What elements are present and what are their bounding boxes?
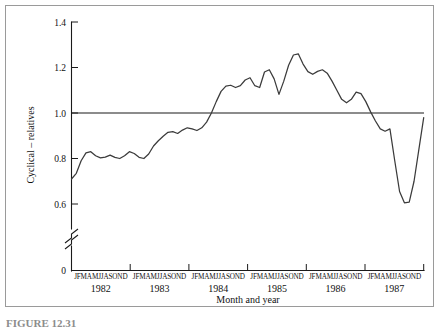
- year-label-1983: 1983: [150, 283, 170, 294]
- y-tick-label-0: 0: [61, 266, 66, 276]
- year-label-1982: 1982: [91, 283, 111, 294]
- year-label-1986: 1986: [326, 283, 346, 294]
- month-letters-1984: JFMAMJJASOND: [192, 273, 245, 281]
- year-label-1984: 1984: [208, 283, 228, 294]
- y-axis-title: Cyclical – relatives: [25, 106, 36, 183]
- month-letters-1987: JFMAMJJASOND: [368, 273, 421, 281]
- y-tick-label-1-0: 1.0: [54, 109, 66, 119]
- month-letters-1986: JFMAMJJASOND: [309, 273, 362, 281]
- y-tick-label-1-4: 1.4: [54, 18, 66, 28]
- cyclical-relatives-series: [72, 54, 424, 203]
- figure-root: 1.4 1.2 1.0 0.8 0.6 0 Cyclical – relativ…: [0, 0, 447, 333]
- x-axis-group: JFMAMJJASOND JFMAMJJASOND JFMAMJJASOND J…: [72, 264, 425, 305]
- y-tick-label-0-8: 0.8: [54, 154, 66, 164]
- month-letters-1982: JFMAMJJASOND: [74, 273, 127, 281]
- x-axis-title: Month and year: [216, 294, 280, 305]
- year-label-1985: 1985: [267, 283, 287, 294]
- month-letters-1985: JFMAMJJASOND: [250, 273, 303, 281]
- figure-caption: FIGURE 12.31: [6, 320, 126, 329]
- y-axis-group: 1.4 1.2 1.0 0.8 0.6 0 Cyclical – relativ…: [25, 18, 78, 277]
- year-label-1987: 1987: [384, 283, 404, 294]
- chart-canvas: 1.4 1.2 1.0 0.8 0.6 0 Cyclical – relativ…: [0, 0, 447, 333]
- month-letters-1983: JFMAMJJASOND: [133, 273, 186, 281]
- y-tick-label-1-2: 1.2: [54, 63, 66, 73]
- y-tick-label-0-6: 0.6: [54, 200, 66, 210]
- figure-caption-strip: FIGURE 12.31: [6, 320, 126, 331]
